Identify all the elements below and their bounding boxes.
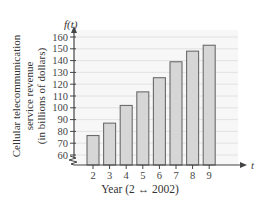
bar-7 [170,62,182,165]
y-tick-label: 100 [52,102,68,113]
y-tick-label: 140 [52,55,68,66]
bar-4 [120,105,132,165]
y-tick-label: 90 [58,114,69,125]
x-axis-label: Year (2 ↔ 2002) [60,183,220,195]
x-tick-label: 5 [140,170,145,181]
bar-chart: 6070809010011012013014015016023456789t [0,0,255,208]
bar-9 [203,45,215,165]
x-tick-label: 2 [90,170,95,181]
x-axis-arrow-icon [240,162,247,168]
y-tick-label: 60 [58,150,69,161]
bar-2 [87,136,99,165]
y-axis-arrow-icon [71,26,77,33]
y-tick-label: 70 [58,138,69,149]
x-axis-var-label: t [251,159,255,171]
x-tick-label: 8 [190,170,195,181]
y-tick-label: 150 [52,43,68,54]
bar-5 [137,92,149,165]
bar-6 [153,78,165,165]
y-tick-label: 160 [52,32,68,43]
y-tick-label: 120 [52,79,68,90]
x-tick-label: 7 [173,170,178,181]
x-tick-label: 4 [124,170,130,181]
bar-3 [104,123,116,165]
x-tick-label: 6 [157,170,162,181]
x-tick-label: 9 [207,170,212,181]
y-tick-label: 110 [53,91,68,102]
y-tick-label: 130 [52,67,68,78]
bar-8 [187,51,199,165]
x-tick-label: 3 [107,170,112,181]
y-tick-label: 80 [58,126,69,137]
